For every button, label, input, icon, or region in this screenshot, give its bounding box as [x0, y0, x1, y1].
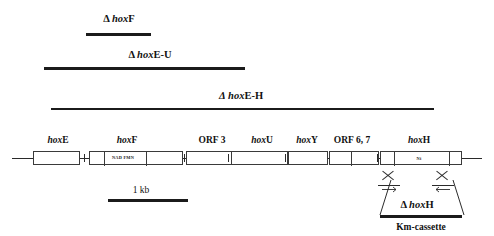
- gene-label-hoxu: hoxU: [251, 136, 273, 146]
- deletion-label-hoxe-h: Δ hoxE-H: [219, 91, 263, 102]
- gene-suffix: F: [131, 135, 137, 145]
- delta-symbol: Δ: [103, 13, 109, 24]
- scale-bar: [108, 199, 188, 202]
- gene-box-hoxy: [288, 151, 328, 165]
- km-cassette-label: Km-cassette: [396, 222, 446, 232]
- gene-suffix: U: [266, 135, 273, 145]
- deletion-bar-hoxe-h: [51, 108, 434, 110]
- domain-label-nad-fmn: NAD FMN: [112, 155, 134, 160]
- gene-italic: hox: [112, 13, 128, 24]
- gene-box-orf67: [329, 151, 379, 165]
- gene-italic: hox: [408, 135, 423, 145]
- gene-suffix: ORF 3: [199, 135, 226, 145]
- deletion-bar-hoxe-u: [44, 67, 245, 70]
- delta-symbol: Δ: [219, 90, 226, 101]
- gene-suffix: H: [423, 135, 430, 145]
- gene-box-hoxf: [89, 151, 183, 165]
- gene-italic: hox: [409, 199, 425, 210]
- gene-suffix: F: [128, 13, 134, 24]
- gene-label-orf67: ORF 6, 7: [334, 136, 370, 146]
- gene-suffix: Y: [311, 135, 318, 145]
- delta-symbol: Δ: [400, 199, 406, 210]
- gene-suffix: E-U: [153, 49, 171, 60]
- gene-label-hoxf: hoxF: [117, 136, 138, 146]
- gene-italic: hox: [296, 135, 311, 145]
- scale-bar-label: 1 kb: [133, 185, 150, 195]
- deletion-label-hoxf: Δ hoxF: [103, 14, 134, 25]
- gene-italic: hox: [47, 135, 62, 145]
- gene-label-orf3: ORF 3: [199, 136, 226, 146]
- gene-italic: hox: [228, 90, 244, 101]
- backbone-tick: [285, 154, 286, 162]
- deletion-bar-hoxf: [86, 33, 151, 36]
- gene-box-hoxe: [33, 151, 80, 165]
- orf-divider: [351, 152, 352, 166]
- gene-suffix: E-H: [244, 90, 263, 101]
- gene-label-hoxy: hoxY: [296, 136, 318, 146]
- backbone-tick: [377, 154, 378, 162]
- gene-suffix: ORF 6, 7: [334, 135, 370, 145]
- backbone-tick: [228, 154, 229, 162]
- gene-label-hoxe: hoxE: [47, 136, 68, 146]
- gene-italic: hox: [117, 135, 132, 145]
- hoxh-deletion-label: Δ hoxH: [400, 199, 433, 210]
- domain-label-ni: Ni: [417, 156, 422, 161]
- domain-divider: [449, 152, 450, 166]
- gene-label-hoxh: hoxH: [408, 136, 430, 146]
- delta-symbol: Δ: [128, 49, 134, 60]
- km-cassette-bar: [380, 215, 462, 218]
- domain-divider: [394, 152, 395, 166]
- gene-cluster-figure: Δ hoxF Δ hoxE-U Δ hoxE-H hoxE hoxF ORF 3…: [0, 0, 494, 236]
- deletion-label-hoxe-u: Δ hoxE-U: [128, 50, 171, 61]
- domain-divider: [146, 152, 147, 166]
- gene-italic: hox: [251, 135, 266, 145]
- backbone-tick: [184, 154, 185, 162]
- domain-divider: [104, 152, 105, 166]
- gene-box-hoxu: [231, 151, 288, 165]
- backbone-tick: [84, 154, 85, 162]
- gene-suffix: E: [62, 135, 68, 145]
- gene-suffix: H: [425, 199, 433, 210]
- gene-italic: hox: [137, 49, 153, 60]
